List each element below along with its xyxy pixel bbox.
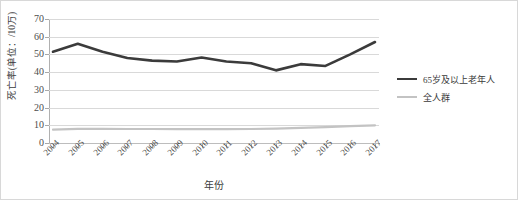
legend-item-label: 65岁及以上老年人: [423, 73, 495, 86]
y-tick-mark: [45, 37, 49, 38]
plot-area: [49, 19, 379, 143]
y-tick-label: 50: [4, 49, 44, 59]
y-tick-mark: [45, 143, 49, 144]
y-tick-mark: [45, 108, 49, 109]
x-axis-title: 年份: [49, 177, 379, 192]
x-tick-label: 2004: [42, 138, 61, 157]
legend-item-label: 全人群: [423, 91, 450, 104]
y-tick-label: 20: [4, 103, 44, 113]
series-line-1: [53, 42, 375, 70]
y-tick-label: 60: [4, 32, 44, 42]
y-tick-mark: [45, 19, 49, 20]
y-tick-label: 0: [4, 138, 44, 148]
series-layer: [49, 19, 379, 143]
legend-item[interactable]: 全人群: [397, 89, 515, 105]
y-tick-label: 30: [4, 85, 44, 95]
y-tick-mark: [45, 125, 49, 126]
y-tick-label: 70: [4, 14, 44, 24]
y-axis-tick-labels: 010203040506070: [1, 1, 44, 200]
chart-figure: 死亡率(单位：/10万) 010203040506070 20042005200…: [0, 0, 518, 200]
y-tick-mark: [45, 90, 49, 91]
series-line-2: [53, 125, 375, 129]
legend-swatch-icon: [397, 78, 417, 80]
legend-item[interactable]: 65岁及以上老年人: [397, 71, 515, 87]
y-tick-label: 40: [4, 67, 44, 77]
y-tick-label: 10: [4, 120, 44, 130]
y-tick-mark: [45, 54, 49, 55]
y-tick-mark: [45, 72, 49, 73]
chart-legend: 65岁及以上老年人全人群: [397, 71, 515, 107]
legend-swatch-icon: [397, 96, 417, 98]
